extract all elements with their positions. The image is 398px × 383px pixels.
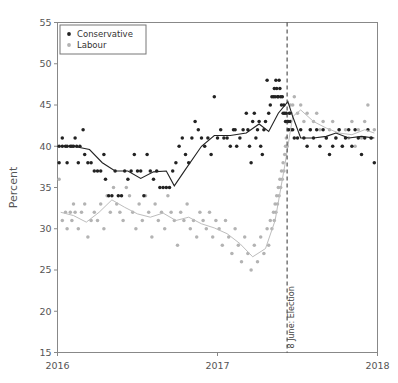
data-point [81, 128, 85, 132]
data-point [253, 112, 256, 116]
data-point [256, 260, 260, 264]
data-point [147, 211, 151, 215]
legend-label-conservative: Conservative [77, 29, 133, 39]
data-point [61, 136, 65, 140]
data-point [150, 235, 154, 239]
data-point [299, 103, 303, 107]
data-point [265, 227, 269, 231]
y-tick-label: 30 [39, 223, 51, 234]
data-point [190, 136, 194, 140]
data-point [125, 186, 129, 190]
data-point [216, 136, 220, 140]
data-point [235, 145, 239, 149]
data-point [198, 211, 202, 215]
x-tick-label: 2018 [365, 360, 389, 371]
data-point [65, 227, 69, 231]
data-point [70, 219, 74, 223]
data-point [240, 260, 244, 264]
data-point [214, 219, 218, 223]
data-point [277, 79, 281, 83]
data-point [353, 128, 357, 132]
x-tick-label: 2016 [45, 360, 69, 371]
data-point [185, 202, 189, 206]
data-point [373, 128, 377, 132]
data-point [182, 219, 186, 223]
data-point [291, 128, 295, 132]
data-point [65, 161, 69, 165]
data-point [269, 219, 273, 223]
data-point [165, 186, 169, 190]
data-point [233, 128, 237, 132]
data-point [224, 219, 228, 223]
data-point [267, 112, 271, 116]
data-point [305, 145, 309, 149]
data-point [225, 136, 229, 140]
data-point [315, 128, 319, 132]
data-point [259, 145, 263, 149]
data-point [265, 79, 269, 83]
data-point [253, 244, 256, 248]
data-point [57, 145, 61, 149]
data-point [248, 145, 252, 149]
data-point [275, 87, 279, 91]
data-point [350, 120, 354, 124]
data-point [102, 153, 106, 157]
data-point [193, 120, 197, 124]
data-point [357, 128, 361, 132]
data-point [278, 87, 282, 91]
data-point [61, 219, 65, 223]
data-point [174, 161, 178, 165]
legend-marker-conservative [67, 32, 71, 36]
election-label: 8 June: Election [287, 286, 296, 348]
data-point [189, 227, 193, 231]
data-point [102, 227, 106, 231]
data-point [86, 235, 90, 239]
data-point [296, 136, 300, 140]
data-point [149, 169, 153, 173]
data-point [249, 161, 253, 165]
data-point [211, 235, 215, 239]
data-point [57, 178, 61, 182]
data-point [83, 153, 87, 157]
data-point [121, 219, 125, 223]
data-point [257, 120, 261, 124]
data-point [141, 219, 145, 223]
data-point [363, 120, 367, 124]
data-point [86, 161, 90, 165]
data-point [171, 169, 175, 173]
data-point [169, 211, 173, 215]
data-point [347, 128, 351, 132]
data-point [249, 268, 253, 272]
data-point [145, 153, 149, 157]
data-point [200, 136, 204, 140]
data-point [293, 136, 297, 140]
data-point [256, 128, 260, 132]
data-point [262, 252, 266, 256]
data-point [77, 227, 81, 231]
data-point [69, 211, 73, 215]
data-point [184, 153, 188, 157]
data-point [259, 235, 263, 239]
data-point [157, 219, 161, 223]
legend-label-labour: Labour [77, 40, 107, 50]
data-point [230, 252, 234, 256]
data-point [89, 161, 93, 165]
data-point [318, 128, 322, 132]
data-point [299, 128, 303, 132]
data-point [161, 186, 165, 190]
data-point [251, 120, 255, 124]
data-point [209, 153, 213, 157]
data-point [208, 211, 212, 215]
data-point [221, 244, 225, 248]
y-tick-label: 20 [39, 306, 51, 317]
data-point [72, 202, 76, 206]
legend-marker-labour [67, 43, 71, 47]
data-point [126, 178, 129, 182]
data-point [73, 211, 77, 215]
data-point [83, 202, 87, 206]
data-point [117, 194, 121, 198]
y-tick-label: 35 [39, 182, 51, 193]
data-point [331, 145, 335, 149]
data-point [104, 178, 108, 182]
data-point [163, 227, 167, 231]
